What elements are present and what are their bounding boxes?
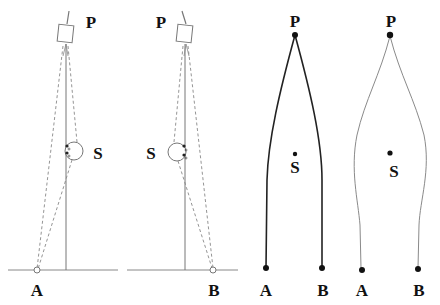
curve-p-to-b [390, 36, 426, 268]
point-a [263, 265, 269, 271]
antenna [67, 11, 69, 24]
label-a: A [31, 282, 43, 299]
detector-b [210, 267, 216, 273]
panel-3-paths [263, 32, 325, 271]
antenna [182, 11, 186, 24]
label-p: P [290, 13, 300, 30]
sphere-mark-1 [65, 144, 68, 147]
label-s: S [290, 159, 299, 176]
point-b [319, 265, 325, 271]
label-p: P [86, 14, 96, 31]
dashed-ray-to-sphere [174, 46, 183, 142]
point-s [387, 150, 392, 155]
dashed-ray-from-sphere [38, 160, 72, 269]
label-p: P [386, 13, 396, 30]
path-p-to-a [266, 35, 295, 268]
dashed-ray-outer [37, 46, 63, 269]
point-b [415, 266, 421, 272]
label-b: B [208, 282, 219, 299]
panel-2-apparatus [127, 11, 238, 273]
label-s: S [389, 163, 398, 180]
panel-4-paths [354, 32, 426, 273]
label-b: B [317, 282, 328, 299]
diagram-canvas [0, 0, 440, 305]
label-s: S [93, 145, 102, 162]
dashed-ray-to-sphere [68, 46, 77, 142]
dashed-ray-outer [188, 46, 213, 268]
diagram: P S A P S B P S A B P S A B [0, 0, 440, 305]
sphere-mark-2 [182, 153, 185, 156]
point-p [292, 32, 298, 38]
dashed-ray-from-sphere [178, 161, 212, 268]
label-b: B [413, 282, 424, 299]
path-p-to-b [295, 35, 322, 268]
label-s: S [146, 145, 155, 162]
point-s [293, 152, 297, 156]
point-p [387, 32, 393, 38]
label-a: A [356, 282, 368, 299]
panel-1-apparatus [8, 11, 118, 273]
source-box [57, 24, 74, 42]
point-a [359, 267, 365, 273]
source-box [176, 24, 193, 42]
label-a: A [260, 282, 272, 299]
curve-p-to-a [354, 36, 390, 268]
label-p: P [156, 14, 166, 31]
sphere-mark-1 [182, 144, 185, 147]
detector-a [34, 267, 40, 273]
sphere-mark-2 [65, 151, 68, 154]
